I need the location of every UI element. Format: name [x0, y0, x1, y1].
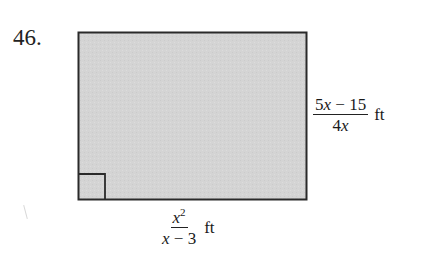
height-denominator: 4x	[331, 115, 351, 134]
height-label: 5x − 15 4x ft	[313, 96, 385, 134]
width-fraction: x2 x − 3	[160, 209, 198, 247]
width-num-var: x	[173, 208, 181, 227]
width-label: x2 x − 3 ft	[160, 209, 215, 247]
height-unit: ft	[374, 105, 384, 125]
height-den-coef: 4	[333, 116, 342, 135]
height-num-const: − 15	[331, 95, 366, 114]
height-den-var: x	[341, 116, 349, 135]
width-den-var: x	[162, 229, 170, 248]
height-num-coef: 5	[315, 95, 324, 114]
width-num-exponent: 2	[180, 206, 186, 218]
width-denominator: x − 3	[160, 228, 198, 247]
height-fraction: 5x − 15 4x	[313, 96, 368, 134]
rectangle	[79, 33, 307, 200]
width-unit: ft	[204, 218, 214, 238]
width-den-const: − 3	[170, 229, 197, 248]
height-numerator: 5x − 15	[313, 96, 368, 115]
height-num-var: x	[324, 95, 332, 114]
width-numerator: x2	[171, 209, 188, 228]
